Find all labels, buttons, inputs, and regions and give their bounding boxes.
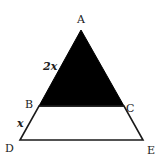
- label-segment-bd: x: [16, 117, 24, 130]
- label-d: D: [5, 142, 14, 155]
- label-a: A: [76, 13, 86, 26]
- label-b: B: [25, 98, 33, 111]
- label-c: C: [126, 102, 134, 115]
- label-e: E: [147, 144, 155, 157]
- trapezoid-bcde: [20, 106, 143, 140]
- triangle-diagram: A B C D E 2x x: [0, 0, 161, 161]
- label-segment-ab: 2x: [42, 60, 58, 73]
